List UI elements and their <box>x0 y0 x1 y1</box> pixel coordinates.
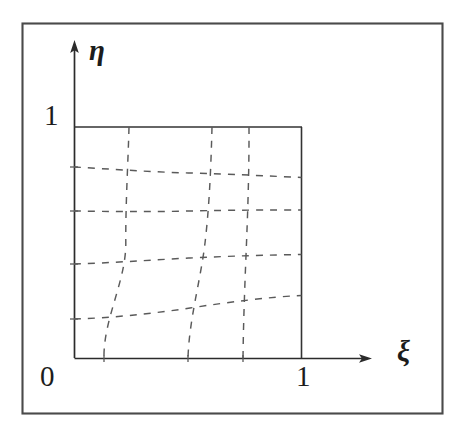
figure-canvas <box>0 0 462 435</box>
xi-axis-label: ξ <box>397 337 410 366</box>
eta-axis-label: η <box>89 36 105 65</box>
figure-container: η ξ 1 1 0 <box>0 0 462 435</box>
outer-frame <box>23 24 443 414</box>
origin-tick-label: 0 <box>40 362 55 391</box>
xi-max-tick-label: 1 <box>296 362 311 391</box>
eta-max-tick-label: 1 <box>44 101 59 130</box>
